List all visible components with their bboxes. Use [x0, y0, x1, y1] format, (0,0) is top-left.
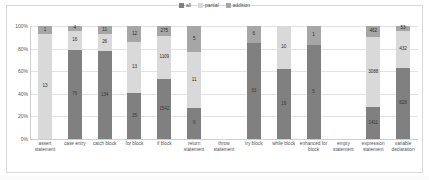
bar-series-group: 1134167611261341213352751109154251166331…	[30, 26, 418, 139]
y-tick-0: 0%	[2, 137, 28, 142]
bar-segment-addition[interactable]: 462	[366, 26, 380, 37]
bar-group[interactable]: 633	[239, 26, 269, 139]
bar-value-label: 1542	[159, 107, 169, 112]
x-tick-label: empty statement	[328, 141, 358, 175]
x-tick-label: try block	[239, 141, 269, 175]
bar-segment-all[interactable]: 33	[247, 43, 261, 139]
bar-segment-all[interactable]: 1542	[157, 79, 171, 139]
stacked-bar[interactable]: 41676	[68, 26, 82, 139]
bar-value-label: 10	[281, 45, 286, 50]
bar-segment-partial[interactable]: 26	[98, 34, 112, 51]
x-tick-label: return statement	[179, 141, 209, 175]
stacked-bar[interactable]: 15	[307, 26, 321, 139]
x-tick-label: if block	[149, 141, 179, 175]
stacked-bar[interactable]: 1126134	[98, 26, 112, 139]
legend-label-partial: partial	[205, 3, 219, 8]
bar-segment-partial[interactable]: 11	[187, 52, 201, 109]
bar-segment-partial[interactable]: 1109	[157, 36, 171, 79]
bar-group[interactable]: 15	[299, 26, 329, 139]
bar-value-label: 13	[42, 84, 47, 89]
bar-segment-addition[interactable]: 275	[157, 26, 171, 36]
bar-segment-addition[interactable]: 11	[98, 26, 112, 34]
stacked-bar[interactable]: 5116	[187, 26, 201, 139]
y-axis-ticks: 100% 80% 60% 40% 20% 0%	[0, 26, 28, 140]
bar-value-label: 33	[251, 89, 256, 94]
bar-value-label: 16	[72, 38, 77, 43]
x-tick-label: for block	[120, 141, 150, 175]
bar-segment-addition[interactable]: 1	[307, 26, 321, 45]
bar-segment-partial[interactable]: 432	[396, 31, 410, 68]
bar-value-label: 462	[370, 29, 377, 34]
x-axis-line	[30, 139, 418, 140]
bar-segment-all[interactable]: 134	[98, 51, 112, 139]
bar-group[interactable]: 5116	[179, 26, 209, 139]
x-tick-label: throw statement	[209, 141, 239, 175]
bar-group[interactable]: 46230881411	[358, 26, 388, 139]
bar-value-label: 11	[102, 28, 107, 33]
page-bottom-strip	[0, 176, 429, 180]
y-tick-40: 40%	[2, 92, 28, 97]
bar-group[interactable]: 41676	[60, 26, 90, 139]
y-tick-80: 80%	[2, 47, 28, 52]
y-tick-100: 100%	[2, 24, 28, 29]
legend-item-partial[interactable]: partial	[198, 3, 219, 8]
stacked-bar[interactable]: 46230881411	[366, 26, 380, 139]
legend-item-all[interactable]: all	[179, 3, 191, 8]
bar-value-label: 432	[399, 47, 406, 52]
bar-value-label: 6	[253, 32, 255, 37]
y-tick-60: 60%	[2, 69, 28, 74]
bar-segment-all[interactable]: 76	[68, 50, 82, 139]
chart-container: all partial addition 100% 80% 60% 40% 20…	[0, 0, 429, 180]
stacked-bar[interactable]: 633	[247, 26, 261, 139]
bar-group[interactable]	[209, 26, 239, 139]
bar-value-label: 35	[132, 114, 137, 119]
legend-swatch-addition	[226, 3, 231, 8]
bar-value-label: 13	[132, 65, 137, 70]
x-tick-label: enhanced for block	[299, 141, 329, 175]
bar-segment-all[interactable]: 828	[396, 68, 410, 139]
bar-value-label: 3088	[368, 70, 378, 75]
bar-segment-all[interactable]: 6	[187, 108, 201, 139]
bar-group[interactable]: 1016	[269, 26, 299, 139]
bar-segment-addition[interactable]: 12	[127, 26, 141, 42]
legend-item-addition[interactable]: addition	[226, 3, 251, 8]
stacked-bar[interactable]: 1016	[277, 26, 291, 139]
bar-segment-partial[interactable]: 3088	[366, 37, 380, 107]
bar-value-label: 76	[72, 92, 77, 97]
bar-segment-partial[interactable]: 13	[127, 42, 141, 93]
bar-segment-all[interactable]: 5	[307, 45, 321, 139]
bar-segment-partial[interactable]: 13	[38, 34, 52, 139]
stacked-bar[interactable]	[217, 26, 231, 139]
bar-value-label: 1411	[368, 121, 377, 126]
bar-segment-addition[interactable]: 1	[38, 26, 52, 34]
bar-group[interactable]: 1126134	[90, 26, 120, 139]
bar-segment-partial[interactable]: 10	[277, 26, 291, 69]
stacked-bar[interactable]: 53432828	[396, 26, 410, 139]
bar-segment-addition[interactable]: 6	[247, 26, 261, 43]
bar-segment-all[interactable]: 16	[277, 69, 291, 139]
stacked-bar[interactable]	[336, 26, 350, 139]
bar-value-label: 11	[192, 78, 197, 83]
bar-value-label: 134	[101, 93, 108, 98]
x-tick-label: expression statement	[358, 141, 388, 175]
legend-label-addition: addition	[233, 3, 251, 8]
bar-group[interactable]: 27511091542	[149, 26, 179, 139]
stacked-bar[interactable]: 113	[38, 26, 52, 139]
legend-label-all: all	[186, 3, 191, 8]
stacked-bar[interactable]: 121335	[127, 26, 141, 139]
bar-segment-addition[interactable]: 5	[187, 26, 201, 52]
bar-segment-all[interactable]: 35	[127, 93, 141, 139]
bar-group[interactable]	[328, 26, 358, 139]
bar-group[interactable]: 53432828	[388, 26, 418, 139]
bar-segment-partial[interactable]: 16	[68, 31, 82, 50]
bar-group[interactable]: 121335	[120, 26, 150, 139]
bar-value-label: 26	[102, 40, 107, 45]
chart-legend: all partial addition	[0, 3, 429, 8]
x-tick-label: catch block	[90, 141, 120, 175]
bar-value-label: 5	[193, 37, 195, 42]
stacked-bar[interactable]: 27511091542	[157, 26, 171, 139]
x-tick-label: case entry	[60, 141, 90, 175]
bar-group[interactable]: 113	[30, 26, 60, 139]
bar-segment-all[interactable]: 1411	[366, 107, 380, 139]
bar-value-label: 16	[281, 102, 286, 107]
